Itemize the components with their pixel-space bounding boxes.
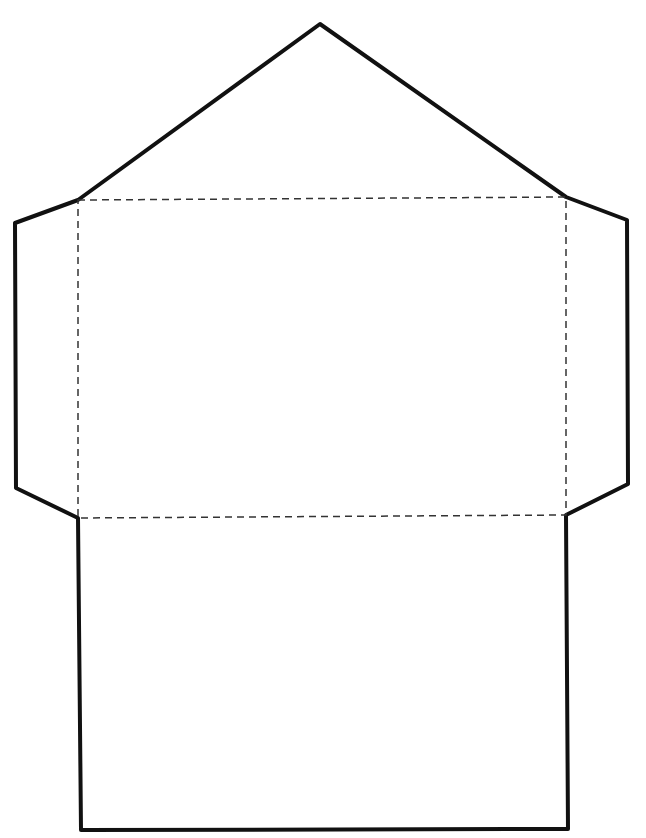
envelope-cut-outline <box>15 24 628 830</box>
envelope-fold-lines <box>78 197 566 518</box>
envelope-template-diagram <box>0 0 646 838</box>
envelope-template-canvas <box>0 0 646 838</box>
